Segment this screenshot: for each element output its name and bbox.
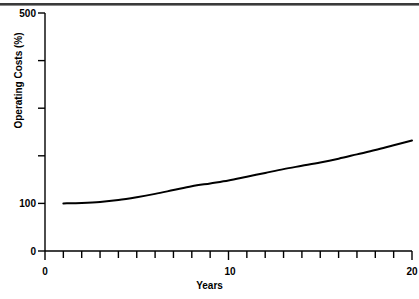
data-series-operating-costs [63,141,412,204]
chart-plot-area [0,0,419,299]
x-tick-label-0: 0 [35,266,55,277]
y-tick-label-0: 0 [2,246,36,257]
chart-page: Operating Costs (%) Years 500 100 0 0 10… [0,0,419,299]
y-tick-label-500: 500 [2,8,36,19]
y-axis-title: Operating Costs (%) [13,11,24,151]
y-tick-label-100: 100 [2,198,36,209]
x-tick-label-10: 10 [217,266,243,277]
x-tick-label-20: 20 [399,266,419,277]
x-axis-title: Years [0,280,419,291]
